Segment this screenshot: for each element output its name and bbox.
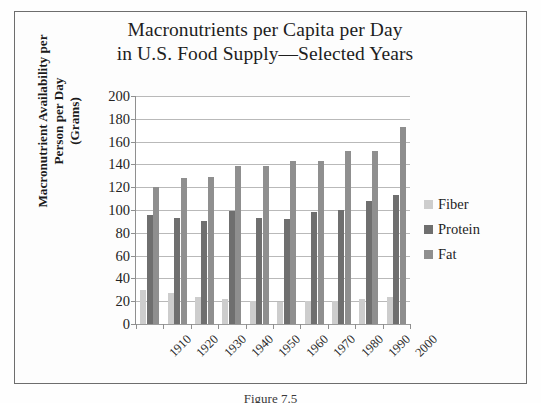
bar-fat-2000 bbox=[400, 127, 406, 324]
bar-fiber-1950 bbox=[250, 301, 256, 324]
bar-group bbox=[191, 96, 218, 324]
bar-fiber-1920 bbox=[168, 293, 174, 324]
bar-fiber-1910 bbox=[140, 290, 146, 324]
bar-group bbox=[218, 96, 245, 324]
bar-fat-1920 bbox=[181, 178, 187, 324]
y-axis-tick-label: 20 bbox=[90, 293, 130, 310]
bar-protein-1960 bbox=[284, 219, 290, 324]
bar-fiber-2000 bbox=[387, 297, 393, 324]
chart-title: Macronutrients per Capita per Day in U.S… bbox=[55, 18, 475, 66]
bar-fat-1930 bbox=[208, 177, 214, 324]
y-axis-tick-label: 100 bbox=[90, 202, 130, 219]
y-axis-tick-label: 160 bbox=[90, 133, 130, 150]
y-axis-title-line-2: Person per Day bbox=[51, 1, 67, 241]
bar-protein-1910 bbox=[147, 215, 153, 324]
bar-group bbox=[383, 96, 410, 324]
bar-fiber-1930 bbox=[195, 297, 201, 324]
bar-protein-1940 bbox=[229, 211, 235, 324]
y-axis-title-line-3: (Grams) bbox=[67, 1, 83, 241]
bar-fiber-1990 bbox=[359, 299, 365, 324]
x-axis-tick bbox=[410, 324, 411, 329]
bar-protein-1990 bbox=[366, 201, 372, 324]
y-axis-tick-label: 180 bbox=[90, 110, 130, 127]
x-axis-tick-label-1950: 1950 bbox=[276, 332, 304, 360]
bar-protein-1970 bbox=[311, 212, 317, 324]
bar-fiber-1960 bbox=[277, 302, 283, 324]
y-axis-tick-label: 80 bbox=[90, 224, 130, 241]
y-axis-tick-labels: 020406080100120140160180200 bbox=[88, 96, 130, 324]
legend-label: Fat bbox=[438, 246, 457, 263]
y-axis-tick-label: 60 bbox=[90, 247, 130, 264]
bar-group bbox=[300, 96, 327, 324]
bar-protein-1980 bbox=[338, 210, 344, 324]
chart-legend: FiberProteinFat bbox=[424, 192, 524, 267]
legend-swatch-icon bbox=[424, 225, 433, 234]
x-axis-tick-labels: 1910192019301940195019601970198019902000 bbox=[136, 324, 410, 384]
bar-group bbox=[328, 96, 355, 324]
legend-label: Fiber bbox=[438, 196, 469, 213]
y-axis-tick-label: 140 bbox=[90, 156, 130, 173]
chart-title-line-2: in U.S. Food Supply—Selected Years bbox=[55, 42, 475, 66]
bar-fat-1960 bbox=[290, 161, 296, 324]
x-axis-tick-label-1930: 1930 bbox=[221, 332, 249, 360]
x-axis-tick-label-1960: 1960 bbox=[303, 332, 331, 360]
bar-protein-1930 bbox=[201, 221, 207, 324]
x-axis-tick-label-1980: 1980 bbox=[358, 332, 386, 360]
bar-group bbox=[273, 96, 300, 324]
x-axis-tick-label-1920: 1920 bbox=[193, 332, 221, 360]
figure-page: Macronutrients per Capita per Day in U.S… bbox=[0, 0, 541, 403]
legend-item-protein[interactable]: Protein bbox=[424, 217, 524, 242]
bar-fat-1980 bbox=[345, 151, 351, 324]
x-axis-tick-label-1970: 1970 bbox=[330, 332, 358, 360]
legend-swatch-icon bbox=[424, 250, 433, 259]
bar-fiber-1970 bbox=[305, 301, 311, 324]
legend-label: Protein bbox=[438, 221, 480, 238]
bar-protein-1920 bbox=[174, 218, 180, 324]
legend-item-fat[interactable]: Fat bbox=[424, 242, 524, 267]
bar-fat-1940 bbox=[235, 166, 241, 324]
bar-protein-1950 bbox=[256, 218, 262, 324]
y-axis-tick-label: 0 bbox=[90, 316, 130, 333]
bar-fat-1970 bbox=[318, 161, 324, 324]
bar-fat-1950 bbox=[263, 166, 269, 324]
x-axis-tick-label-1940: 1940 bbox=[248, 332, 276, 360]
figure-caption: Figure 7.5 bbox=[0, 391, 541, 403]
bar-protein-2000 bbox=[393, 195, 399, 324]
bar-group bbox=[246, 96, 273, 324]
legend-swatch-icon bbox=[424, 200, 433, 209]
y-axis-title: Macronutrient Availability per Person pe… bbox=[35, 1, 81, 241]
plot-area bbox=[136, 96, 410, 324]
bar-fat-1990 bbox=[372, 151, 378, 324]
x-axis-tick-label-1990: 1990 bbox=[385, 332, 413, 360]
y-axis-tick-label: 120 bbox=[90, 179, 130, 196]
bar-fiber-1940 bbox=[222, 299, 228, 324]
y-axis-tick-label: 200 bbox=[90, 88, 130, 105]
chart-title-line-1: Macronutrients per Capita per Day bbox=[55, 18, 475, 42]
bar-group bbox=[136, 96, 163, 324]
bar-fiber-1980 bbox=[332, 301, 338, 324]
y-axis-title-line-1: Macronutrient Availability per bbox=[35, 1, 51, 241]
legend-item-fiber[interactable]: Fiber bbox=[424, 192, 524, 217]
bar-fat-1910 bbox=[153, 187, 159, 324]
x-axis-tick-label-1910: 1910 bbox=[166, 332, 194, 360]
y-axis-tick-label: 40 bbox=[90, 270, 130, 287]
bar-group bbox=[163, 96, 190, 324]
bar-group bbox=[355, 96, 382, 324]
